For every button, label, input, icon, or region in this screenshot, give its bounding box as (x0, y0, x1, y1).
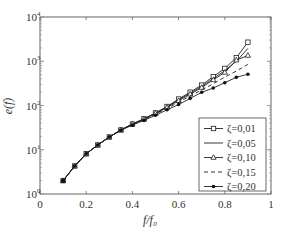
legend-label: ζ=0,01 (227, 123, 256, 135)
x-tick-label: 0.6 (172, 198, 186, 210)
x-axis-title: f/f₀ (143, 213, 157, 227)
x-tick-label: 0.2 (79, 198, 93, 210)
y-axis-title: e(f) (1, 98, 15, 115)
x-tick-label: 0 (37, 198, 43, 210)
y-tick-label: 102 (26, 99, 41, 112)
y-tick-label: 104 (26, 10, 41, 23)
y-tick-label: 101 (26, 143, 41, 156)
x-tick-label: 0.4 (126, 198, 140, 210)
y-tick-labels: 100 101 102 103 104 (26, 10, 41, 200)
legend: ζ=0,01 ζ=0,05 ζ=0,10 ζ=0,15 ζ=0,20 (199, 118, 266, 193)
legend-label: ζ=0,20 (227, 181, 256, 193)
legend-label: ζ=0,05 (227, 138, 256, 150)
x-tick-labels: 0 0.2 0.4 0.6 0.8 1 (37, 198, 274, 210)
legend-label: ζ=0,10 (227, 152, 256, 164)
line-chart: 0 0.2 0.4 0.6 0.8 1 100 101 102 103 104 … (0, 0, 282, 233)
legend-label: ζ=0,15 (227, 167, 256, 179)
y-tick-label: 103 (26, 54, 41, 67)
x-tick-label: 1 (268, 198, 274, 210)
x-tick-label: 0.8 (218, 198, 232, 210)
